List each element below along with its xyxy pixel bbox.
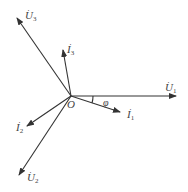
label-I2: ·I2 xyxy=(16,122,23,135)
label-U2: ·U2 xyxy=(27,172,38,185)
phi-label: φ xyxy=(103,98,109,108)
origin-label: O xyxy=(67,99,75,110)
label-U1: ·U1 xyxy=(165,82,176,95)
phasor-vectors xyxy=(0,0,188,192)
phasor-diagram: O φ ·U1 ·U2 ·U3 ·I1 ·I2 ·I3 xyxy=(0,0,188,192)
vector-U3 xyxy=(17,18,71,96)
label-U3: ·U3 xyxy=(25,10,36,23)
label-I1: ·I1 xyxy=(127,109,134,122)
vector-I2 xyxy=(27,96,71,126)
vector-U2 xyxy=(19,96,71,175)
label-I3: ·I3 xyxy=(67,44,74,57)
vector-I1 xyxy=(71,96,120,112)
phi-angle-arc xyxy=(92,96,93,103)
